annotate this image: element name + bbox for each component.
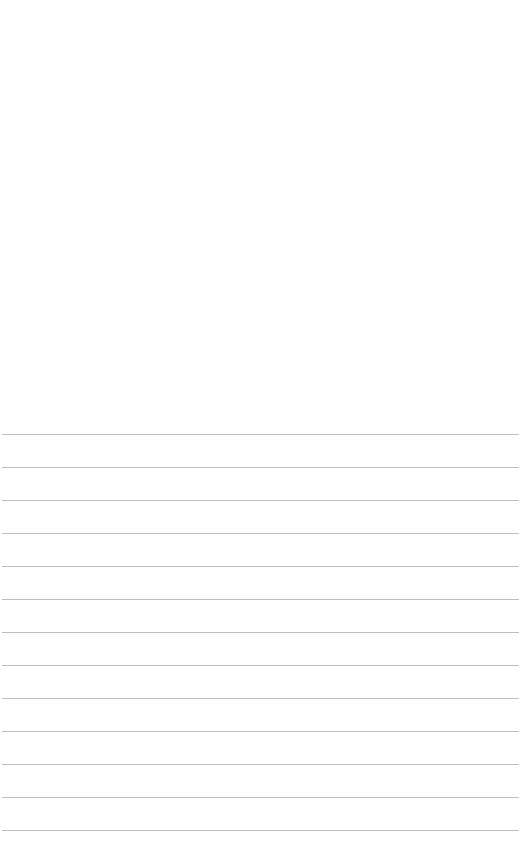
rule-line [2,467,519,468]
rule-line [2,533,519,534]
rule-line [2,632,519,633]
ruled-lines-area [0,0,521,866]
rule-line [2,599,519,600]
rule-line [2,731,519,732]
rule-line [2,830,519,831]
rule-line [2,698,519,699]
rule-line [2,500,519,501]
rule-line [2,434,519,435]
lined-page [0,0,521,866]
rule-line [2,797,519,798]
rule-line [2,764,519,765]
rule-line [2,665,519,666]
rule-line [2,566,519,567]
